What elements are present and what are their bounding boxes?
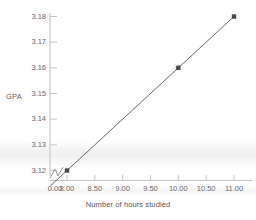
- chart-figure: GPA Number of hours studied 3.123.133.14…: [0, 0, 256, 220]
- plot-area: [0, 0, 256, 220]
- y-tick-marks: [50, 17, 57, 171]
- data-point-marker: [65, 168, 69, 172]
- data-point-marker: [232, 14, 236, 18]
- data-point-marker: [176, 66, 180, 70]
- data-series: [51, 14, 237, 185]
- x-tick-marks: [67, 175, 234, 181]
- series-line: [51, 17, 235, 186]
